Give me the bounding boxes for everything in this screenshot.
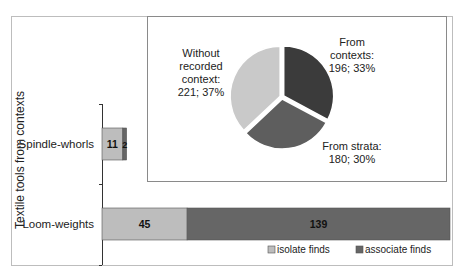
bar-data-label: 45 <box>139 218 151 230</box>
chart-canvas: Textile tools from contextsSpindle-whorl… <box>0 0 464 274</box>
legend-swatch <box>356 246 363 253</box>
pie-data-label: Withoutrecordedcontext:221; 37% <box>178 47 225 98</box>
pie-label-line: 221; 37% <box>178 86 225 98</box>
pie-label-line: 196; 33% <box>329 62 376 74</box>
pie-label-line: contexts: <box>330 49 374 61</box>
legend-label: isolate finds <box>277 244 330 255</box>
pie-label-line: context: <box>182 73 221 85</box>
pie-label-line: recorded <box>179 60 222 72</box>
category-label: Loom-weights <box>22 218 94 230</box>
pie-label-line: From strata: <box>322 140 381 152</box>
pie-label-line: 180; 30% <box>329 153 376 165</box>
pie-label-line: From <box>339 36 365 48</box>
pie-data-label: From strata:180; 30% <box>322 140 381 165</box>
y-axis-label: Textile tools from contexts <box>13 91 27 229</box>
bar-data-label: 139 <box>310 218 328 230</box>
category-label: Spindle-whorls <box>19 138 95 150</box>
pie-label-line: Without <box>182 47 219 59</box>
bar-data-label: 2 <box>122 140 127 150</box>
legend-label: associate finds <box>365 244 431 255</box>
legend-swatch <box>268 246 275 253</box>
bar-data-label: 11 <box>107 138 118 150</box>
